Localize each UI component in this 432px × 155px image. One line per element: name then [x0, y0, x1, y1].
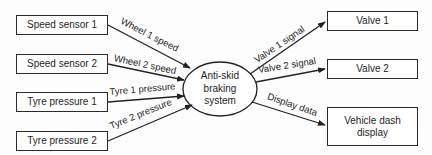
speed-sensor-1-label: Speed sensor 1 [27, 19, 97, 31]
tyre-pressure-2-label: Tyre pressure 2 [27, 135, 96, 147]
tyre-pressure-1-box: Tyre pressure 1 [16, 92, 108, 112]
center-process-label: Anti-skid braking system [188, 70, 252, 108]
valve-2-label: Valve 2 [356, 63, 389, 75]
vehicle-dash-display-box: Vehicle dash display [327, 107, 418, 146]
valve-1-box: Valve 1 [327, 11, 418, 31]
speed-sensor-2-label: Speed sensor 2 [27, 58, 97, 70]
valve-1-label: Valve 1 [356, 15, 389, 27]
arrow-tyre-1-pressure [108, 96, 184, 102]
valve-2-box: Valve 2 [327, 59, 418, 79]
tyre-pressure-1-label: Tyre pressure 1 [27, 96, 96, 108]
vehicle-dash-display-line-2: display [357, 127, 388, 139]
speed-sensor-1-box: Speed sensor 1 [16, 15, 108, 35]
context-diagram: Speed sensor 1 Speed sensor 2 Tyre press… [0, 0, 432, 155]
speed-sensor-2-box: Speed sensor 2 [16, 54, 108, 74]
vehicle-dash-display-line-1: Vehicle dash [344, 115, 401, 127]
tyre-pressure-2-box: Tyre pressure 2 [16, 131, 108, 151]
